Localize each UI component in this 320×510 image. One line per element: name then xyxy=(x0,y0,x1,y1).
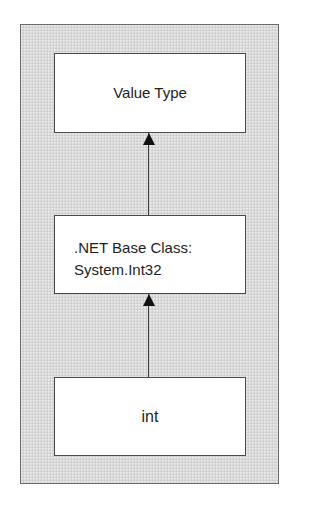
node-base-class: .NET Base Class: System.Int32 xyxy=(54,215,246,294)
node-value-type: Value Type xyxy=(54,53,246,133)
edge-int-to-base-class xyxy=(148,294,149,377)
node-value-type-label: Value Type xyxy=(113,82,187,104)
node-int-label: int xyxy=(142,406,159,428)
arrowhead-up-icon xyxy=(143,294,155,306)
node-base-class-line-2: System.Int32 xyxy=(74,259,245,281)
node-base-class-line-1: .NET Base Class: xyxy=(74,237,245,259)
node-int: int xyxy=(54,377,246,456)
edge-base-class-to-value-type xyxy=(148,133,149,215)
arrowhead-up-icon xyxy=(143,133,155,145)
